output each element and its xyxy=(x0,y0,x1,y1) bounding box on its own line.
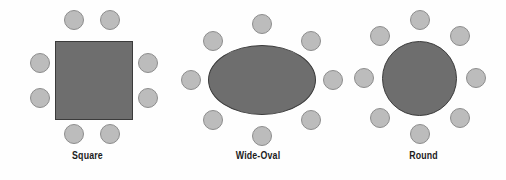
chair-wide-oval-bottom-left xyxy=(203,110,223,130)
chair-round-nw xyxy=(370,26,390,46)
chair-square-top-left xyxy=(64,10,84,30)
table-layout-diagram: SquareWide-OvalRound xyxy=(0,0,506,180)
chair-round-sw xyxy=(370,108,390,128)
table-square xyxy=(55,41,133,120)
chair-wide-oval-top-right xyxy=(301,31,321,51)
table-wide-oval xyxy=(208,45,316,115)
chair-square-top-right xyxy=(100,10,120,30)
diagram-wide-oval: Wide-Oval xyxy=(175,0,341,180)
caption-square: Square xyxy=(11,150,165,161)
chair-square-right-upper xyxy=(138,53,158,73)
chair-wide-oval-top-left xyxy=(203,31,223,51)
chair-round-ne xyxy=(450,26,470,46)
chair-round-n xyxy=(410,10,430,30)
chair-square-bottom-right xyxy=(100,124,120,144)
chair-wide-oval-bottom-right xyxy=(301,110,321,130)
chair-round-s xyxy=(410,124,430,144)
chair-round-se xyxy=(450,108,470,128)
table-round xyxy=(382,41,457,116)
diagram-square: Square xyxy=(0,0,175,180)
chair-wide-oval-left-center xyxy=(181,70,201,90)
chair-wide-oval-top-center xyxy=(252,14,272,34)
chair-wide-oval-bottom-center xyxy=(252,126,272,146)
chair-round-w xyxy=(354,68,374,88)
chair-square-left-lower xyxy=(30,88,50,108)
caption-round: Round xyxy=(351,150,496,161)
chair-wide-oval-right-center xyxy=(323,70,343,90)
chair-square-right-lower xyxy=(138,88,158,108)
chair-square-bottom-left xyxy=(64,124,84,144)
diagram-round: Round xyxy=(341,0,506,180)
chair-square-left-upper xyxy=(30,53,50,73)
chair-round-e xyxy=(466,68,486,88)
caption-wide-oval: Wide-Oval xyxy=(185,150,331,161)
